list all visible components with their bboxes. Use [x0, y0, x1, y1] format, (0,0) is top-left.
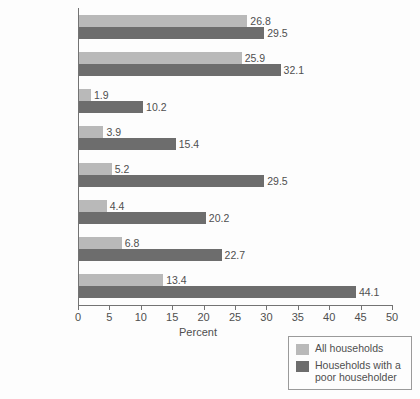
x-axis-tick — [392, 305, 393, 310]
legend-item-label: All households — [315, 343, 383, 355]
legend-item: All households — [296, 343, 405, 355]
x-axis-tick — [266, 305, 267, 310]
x-axis-tick — [172, 305, 173, 310]
x-axis-tick-label: 20 — [197, 311, 209, 323]
bar-value-label: 5.2 — [112, 163, 130, 175]
light-gray-swatch-icon — [296, 344, 309, 355]
category-row: Housing assistance4.420.2 — [78, 194, 392, 231]
x-axis-tick — [361, 305, 362, 310]
x-axis-tick — [109, 305, 110, 310]
legend-item-label: Households with a poor householder — [315, 360, 405, 383]
bar-poor-householder — [79, 212, 206, 224]
x-axis-tick-label: 15 — [166, 311, 178, 323]
x-axis-tick-label: 0 — [75, 311, 81, 323]
x-axis-tick-label: 25 — [229, 311, 241, 323]
category-row: Social Security26.829.5 — [78, 8, 392, 45]
x-axis-tick — [235, 305, 236, 310]
x-axis-tick — [298, 305, 299, 310]
bar-all-households — [79, 200, 107, 212]
bar-value-label: 1.9 — [91, 89, 109, 101]
bar-all-households — [79, 274, 163, 286]
grouped-bar-chart: Social Security26.829.5Medicare25.932.1T… — [0, 0, 420, 399]
x-axis-tick-label: 5 — [106, 311, 112, 323]
x-axis-tick-label: 40 — [323, 311, 335, 323]
bar-value-label: 3.9 — [103, 126, 121, 138]
x-axis-tick — [204, 305, 205, 310]
bar-value-label: 25.9 — [242, 52, 265, 64]
bar-value-label: 32.1 — [281, 64, 304, 76]
bar-value-label: 6.8 — [122, 237, 140, 249]
category-row: TANF/General Assistance1.910.2 — [78, 82, 392, 119]
bar-value-label: 26.8 — [247, 15, 270, 27]
bar-poor-householder — [79, 175, 264, 187]
bar-all-households — [79, 52, 242, 64]
bar-all-households — [79, 126, 103, 138]
bar-value-label: 4.4 — [107, 200, 125, 212]
bar-poor-householder — [79, 249, 222, 261]
plot-area: Social Security26.829.5Medicare25.932.1T… — [78, 8, 392, 305]
bar-value-label: 15.4 — [176, 138, 199, 150]
x-axis-title-text: Percent — [179, 326, 217, 338]
bar-value-label: 29.5 — [264, 27, 287, 39]
bar-poor-householder — [79, 27, 264, 39]
dark-gray-swatch-icon — [296, 361, 309, 372]
x-axis-tick — [141, 305, 142, 310]
bar-value-label: 13.4 — [163, 274, 186, 286]
x-axis-tick — [329, 305, 330, 310]
bar-value-label: 22.7 — [222, 249, 245, 261]
bar-value-label: 20.2 — [206, 212, 229, 224]
bar-all-households — [79, 237, 122, 249]
bar-all-households — [79, 89, 91, 101]
category-row: Food stamps5.229.5 — [78, 157, 392, 194]
bar-poor-householder — [79, 101, 143, 113]
bar-poor-householder — [79, 286, 356, 298]
chart-legend: All households Households with a poor ho… — [288, 336, 412, 390]
category-row: Supplemental Security Income3.915.4 — [78, 119, 392, 156]
x-axis-tick-label: 30 — [260, 311, 272, 323]
x-axis-tick-label: 50 — [386, 311, 398, 323]
x-axis-tick-label: 10 — [135, 311, 147, 323]
bar-poor-householder — [79, 64, 281, 76]
bar-all-households — [79, 15, 247, 27]
bar-value-label: 29.5 — [264, 175, 287, 187]
category-row: Free/ reduced-priced school lunches6.822… — [78, 231, 392, 268]
x-axis-tick-label: 45 — [354, 311, 366, 323]
x-axis-tick — [78, 305, 79, 310]
x-axis-tick-label: 35 — [292, 311, 304, 323]
bar-value-label: 44.1 — [356, 286, 379, 298]
category-row: Medicaid13.444.1 — [78, 268, 392, 305]
legend-item: Households with a poor householder — [296, 360, 405, 383]
category-row: Medicare25.932.1 — [78, 45, 392, 82]
bar-all-households — [79, 163, 112, 175]
bar-poor-householder — [79, 138, 176, 150]
bar-value-label: 10.2 — [143, 101, 166, 113]
